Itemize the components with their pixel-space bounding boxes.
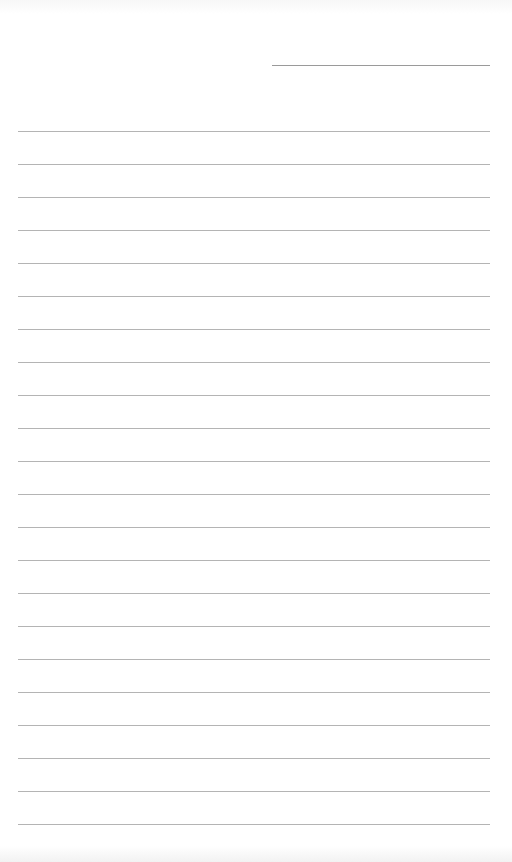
lined-paper-page — [0, 0, 512, 862]
ruled-line — [18, 362, 490, 363]
ruled-line — [18, 824, 490, 825]
ruled-line — [18, 461, 490, 462]
ruled-line — [18, 626, 490, 627]
ruled-line — [18, 527, 490, 528]
ruled-line — [18, 296, 490, 297]
ruled-line — [18, 395, 490, 396]
ruled-line — [18, 560, 490, 561]
ruled-line — [18, 494, 490, 495]
ruled-line — [18, 659, 490, 660]
ruled-line — [18, 263, 490, 264]
ruled-line — [18, 230, 490, 231]
header-signature-line — [272, 65, 490, 66]
ruled-line — [18, 725, 490, 726]
ruled-line — [18, 758, 490, 759]
ruled-line — [18, 131, 490, 132]
ruled-line — [18, 197, 490, 198]
ruled-line — [18, 329, 490, 330]
ruled-line — [18, 428, 490, 429]
ruled-line — [18, 164, 490, 165]
ruled-line — [18, 791, 490, 792]
ruled-line — [18, 593, 490, 594]
ruled-line — [18, 692, 490, 693]
